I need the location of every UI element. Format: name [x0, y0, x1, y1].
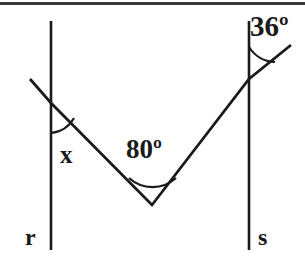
line-label-r: r — [25, 225, 36, 249]
line-label-s: s — [258, 225, 267, 249]
angle-label-x: x — [60, 142, 73, 167]
angle-label-36: 36º — [250, 12, 289, 41]
angle-label-80: 80º — [126, 136, 162, 163]
arc-angle-80 — [129, 178, 176, 187]
geometry-figure: 36º 80º x r s — [0, 0, 305, 275]
arc-angle-x — [51, 118, 74, 133]
